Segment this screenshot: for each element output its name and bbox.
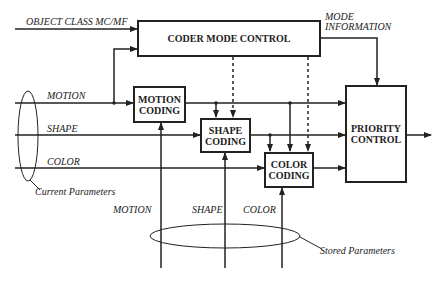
- current-parameters-label: Current Parameters: [35, 187, 115, 197]
- shape-coding-label: SHAPE CODING: [205, 125, 246, 147]
- coder-mode-control-block: CODER MODE CONTROL: [137, 20, 321, 57]
- priority-control-label: PRIORITY CONTROL: [351, 123, 402, 145]
- priority-control-block: PRIORITY CONTROL: [345, 85, 407, 183]
- color-coding-block: COLOR CODING: [264, 152, 314, 188]
- shape-input-label: SHAPE: [47, 124, 78, 134]
- motion-input-label: MOTION: [47, 91, 85, 101]
- mode-information-label-2: INFORMATION: [325, 22, 391, 32]
- color-input-label: COLOR: [47, 157, 80, 167]
- motion-coding-block: MOTION CODING: [133, 86, 186, 123]
- coder-block-diagram: CODER MODE CONTROL MOTION CODING SHAPE C…: [0, 0, 443, 281]
- color-coding-label: COLOR CODING: [268, 159, 309, 181]
- object-class-label: OBJECT CLASS MC/MF: [26, 17, 127, 27]
- color-stored-label: COLOR: [243, 205, 276, 215]
- coder-mode-control-label: CODER MODE CONTROL: [168, 33, 291, 44]
- stored-parameters-label: Stored Parameters: [320, 246, 395, 256]
- shape-stored-label: SHAPE: [192, 205, 223, 215]
- motion-coding-label: MOTION CODING: [138, 94, 181, 116]
- shape-coding-block: SHAPE CODING: [200, 118, 251, 153]
- motion-stored-label: MOTION: [113, 205, 151, 215]
